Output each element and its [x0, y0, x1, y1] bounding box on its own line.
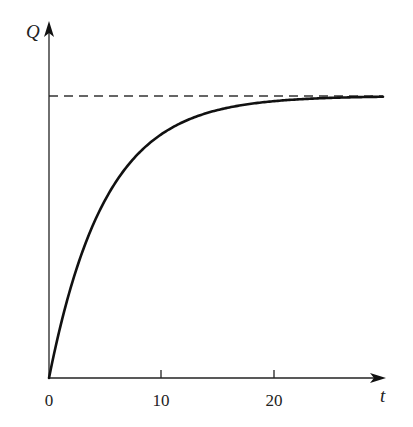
growth-curve	[49, 97, 383, 378]
x-tick-label-10: 10	[153, 391, 170, 410]
chart-canvas: Q t 0 10 20	[0, 0, 413, 427]
x-tick-label-0: 0	[45, 391, 54, 410]
x-tick-label-20: 20	[266, 391, 283, 410]
x-axis-label: t	[380, 385, 386, 406]
y-axis-label: Q	[26, 21, 40, 42]
